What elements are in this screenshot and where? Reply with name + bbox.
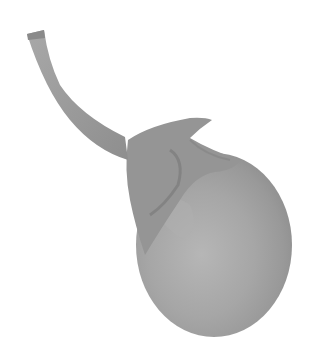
eggplant-stem — [27, 30, 128, 160]
eggplant-photo — [0, 0, 320, 359]
eggplant-illustration — [0, 0, 320, 359]
